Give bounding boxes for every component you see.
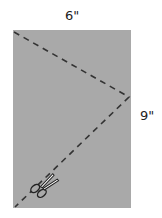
cut-lines: [0, 0, 162, 218]
scissors-icon: [29, 171, 60, 200]
dashed-cut-line: [14, 32, 129, 207]
